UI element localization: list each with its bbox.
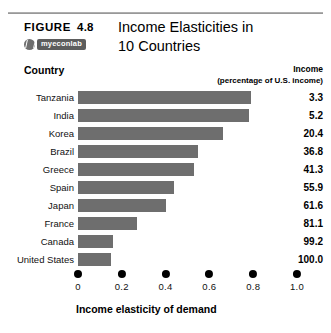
myeconlab-badge-label: myeconlab — [37, 39, 86, 50]
x-axis-tick-dot — [293, 270, 301, 278]
income-value: 81.1 — [271, 216, 323, 231]
income-value: 55.9 — [271, 180, 323, 195]
chart-row: Korea20.4 — [0, 126, 331, 144]
x-axis-tick-dot — [74, 270, 82, 278]
column-header-income-subtitle: (percentage of U.S. income) — [217, 75, 323, 86]
x-axis-tick-label: 0.6 — [202, 281, 216, 292]
bar — [78, 127, 223, 140]
chart-row: Spain55.9 — [0, 180, 331, 198]
x-axis-tick-label: 0.2 — [115, 281, 129, 292]
chart-row: Brazil36.8 — [0, 144, 331, 162]
x-axis-tick: 0 — [74, 270, 82, 292]
country-label: Korea — [0, 126, 74, 141]
bar — [78, 91, 251, 104]
income-value: 99.2 — [271, 234, 323, 249]
x-axis-tick: 0.8 — [246, 270, 260, 292]
bar — [78, 235, 113, 248]
country-label: Japan — [0, 198, 74, 213]
figure-label-text: FIGURE — [24, 21, 71, 33]
country-label: Greece — [0, 162, 74, 177]
x-axis-tick-dot — [118, 270, 126, 278]
x-axis-tick-label: 0 — [74, 281, 82, 292]
x-axis-tick: 1.0 — [290, 270, 304, 292]
figure-label: FIGURE4.8 — [24, 21, 94, 33]
figure-title: Income Elasticities in 10 Countries — [118, 18, 318, 56]
x-axis-title: Income elasticity of demand — [0, 303, 331, 315]
x-axis-tick-label: 0.4 — [159, 281, 173, 292]
income-value: 41.3 — [271, 162, 323, 177]
chart-row: Japan61.6 — [0, 198, 331, 216]
x-axis-tick-label: 1.0 — [290, 281, 304, 292]
bar-track — [78, 235, 297, 248]
income-value: 3.3 — [271, 90, 323, 105]
chart-row: India5.2 — [0, 108, 331, 126]
x-axis: 00.20.40.60.81.0 — [0, 270, 331, 300]
bar-chart-plot-area: Tanzania3.3India5.2Korea20.4Brazil36.8Gr… — [0, 90, 331, 270]
country-label: France — [0, 216, 74, 231]
x-axis-tick-label: 0.8 — [246, 281, 260, 292]
header-divider — [8, 12, 323, 14]
x-axis-tick: 0.6 — [202, 270, 216, 292]
x-axis-tick-dot — [162, 270, 170, 278]
figure-title-line-1: Income Elasticities in — [118, 18, 318, 37]
country-label: United States — [0, 252, 74, 267]
bar-track — [78, 91, 297, 104]
country-label: Canada — [0, 234, 74, 249]
myeconlab-logo-icon — [24, 39, 35, 50]
income-value: 61.6 — [271, 198, 323, 213]
bar — [78, 145, 198, 158]
x-axis-tick-dot — [205, 270, 213, 278]
chart-row: Tanzania3.3 — [0, 90, 331, 108]
figure-title-line-2: 10 Countries — [118, 37, 318, 56]
chart-row: France81.1 — [0, 216, 331, 234]
bar-track — [78, 181, 297, 194]
income-value: 20.4 — [271, 126, 323, 141]
country-label: Tanzania — [0, 90, 74, 105]
figure-number: 4.8 — [77, 21, 94, 33]
myeconlab-badge[interactable]: myeconlab — [24, 38, 86, 50]
x-axis-tick-dot — [249, 270, 257, 278]
bar-track — [78, 163, 297, 176]
x-axis-tick: 0.2 — [115, 270, 129, 292]
income-value: 100.0 — [271, 252, 323, 267]
country-label: Brazil — [0, 144, 74, 159]
x-axis-tick: 0.4 — [159, 270, 173, 292]
bar — [78, 199, 166, 212]
column-header-income-title: Income — [217, 64, 323, 75]
chart-row: Greece41.3 — [0, 162, 331, 180]
chart-row: United States100.0 — [0, 252, 331, 270]
bar-track — [78, 109, 297, 122]
bar-track — [78, 199, 297, 212]
bar-track — [78, 127, 297, 140]
bar — [78, 109, 249, 122]
bar-track — [78, 217, 297, 230]
bar — [78, 217, 137, 230]
country-label: India — [0, 108, 74, 123]
chart-row: Canada99.2 — [0, 234, 331, 252]
column-header-country: Country — [24, 64, 64, 76]
figure-header: FIGURE4.8 myeconlab Income Elasticities … — [0, 18, 331, 60]
bar — [78, 253, 111, 266]
income-value: 5.2 — [271, 108, 323, 123]
bar — [78, 163, 194, 176]
bar-track — [78, 253, 297, 266]
country-label: Spain — [0, 180, 74, 195]
column-header-income: Income (percentage of U.S. income) — [217, 64, 323, 86]
bar — [78, 181, 174, 194]
income-value: 36.8 — [271, 144, 323, 159]
bar-track — [78, 145, 297, 158]
